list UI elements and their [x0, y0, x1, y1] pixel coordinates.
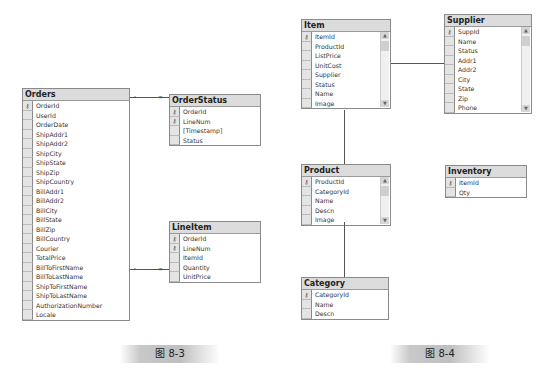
column-row[interactable]: Addr1 [445, 56, 531, 66]
column-row[interactable]: Supplier [302, 70, 390, 80]
table-product[interactable]: Product⚷ProductIdCategoryIdNameDescnImag… [301, 164, 391, 226]
column-row[interactable]: ⚷OrderId [170, 107, 260, 117]
column-name: ProductId [312, 42, 344, 52]
column-row[interactable]: OrderDate [23, 120, 129, 130]
column-row[interactable]: BillToFirstName [23, 263, 129, 273]
column-row[interactable]: Name [302, 300, 388, 310]
table-inventory[interactable]: Inventory⚷ItemIdQty [445, 165, 527, 198]
column-row[interactable]: ShipToFirstName [23, 282, 129, 292]
column-row[interactable]: BillCity [23, 206, 129, 216]
column-name: ItemId [312, 32, 335, 42]
column-row[interactable]: Addr2 [445, 65, 531, 75]
column-row[interactable]: Qty [446, 188, 526, 198]
column-row[interactable]: Quantity [170, 263, 260, 273]
scroll-down-icon[interactable]: ▼ [381, 217, 389, 224]
column-row[interactable]: ShipCountry [23, 177, 129, 187]
column-row[interactable]: Name [445, 37, 531, 47]
table-orderstatus[interactable]: OrderStatus⚷OrderId⚷LineNum[Timestamp]St… [169, 94, 261, 146]
column-row[interactable]: UnitPrice [170, 272, 260, 282]
row-selector [23, 177, 33, 187]
column-name: Zip [455, 94, 468, 104]
column-row[interactable]: Zip [445, 94, 531, 104]
column-row[interactable]: ⚷ItemId [446, 178, 526, 188]
scroll-down-icon[interactable]: ▼ [381, 100, 389, 107]
column-row[interactable]: Image [302, 99, 390, 109]
column-name: Name [312, 196, 333, 206]
column-row[interactable]: Status [445, 46, 531, 56]
row-selector [302, 70, 312, 80]
column-row[interactable]: UserId [23, 111, 129, 121]
column-row[interactable]: Descn [302, 206, 390, 216]
column-row[interactable]: ⚷LineNum [170, 244, 260, 254]
column-row[interactable]: Descn [302, 309, 388, 319]
table-item[interactable]: Item⚷ItemIdProductIdListPriceUnitCostSup… [301, 19, 391, 109]
column-row[interactable]: BillAddr1 [23, 187, 129, 197]
column-row[interactable]: ShipAddr1 [23, 130, 129, 140]
row-selector [302, 196, 312, 206]
column-row[interactable]: Name [302, 89, 390, 99]
column-name: AuthorizationNumber [33, 301, 102, 311]
column-row[interactable]: State [445, 84, 531, 94]
scrollbar[interactable]: ▲▼ [521, 27, 530, 112]
column-row[interactable]: ⚷OrderId [170, 234, 260, 244]
row-selector [23, 263, 33, 273]
row-selector [23, 310, 33, 320]
column-row[interactable]: ⚷ItemId [302, 32, 390, 42]
column-row[interactable]: CategoryId [302, 187, 390, 197]
column-row[interactable]: Locale [23, 310, 129, 320]
column-row[interactable]: City [445, 75, 531, 85]
column-row[interactable]: ⚷CategoryId [302, 290, 388, 300]
row-selector [302, 309, 312, 319]
scroll-down-icon[interactable]: ▼ [522, 105, 530, 112]
table-orders[interactable]: Orders⚷OrderIdUserIdOrderDateShipAddr1Sh… [22, 88, 130, 321]
column-row[interactable]: ShipToLastName [23, 291, 129, 301]
column-row[interactable]: TotalPrice [23, 253, 129, 263]
row-selector [23, 111, 33, 121]
column-row[interactable]: ListPrice [302, 51, 390, 61]
column-name: BillState [33, 215, 62, 225]
column-row[interactable]: BillZip [23, 225, 129, 235]
column-name: City [455, 75, 470, 85]
scroll-up-icon[interactable]: ▲ [381, 32, 389, 39]
scroll-thumb[interactable] [381, 186, 389, 196]
column-row[interactable]: ⚷LineNum [170, 117, 260, 127]
column-row[interactable]: BillState [23, 215, 129, 225]
column-row[interactable]: ItemId [170, 253, 260, 263]
table-lineitem[interactable]: LineItem⚷OrderId⚷LineNumItemIdQuantityUn… [169, 221, 261, 283]
scroll-thumb[interactable] [381, 41, 389, 51]
column-row[interactable]: BillToLastName [23, 272, 129, 282]
column-row[interactable]: Courier [23, 244, 129, 254]
scrollbar[interactable]: ▲▼ [380, 32, 389, 107]
column-row[interactable]: Status [170, 136, 260, 146]
column-row[interactable]: ⚷ProductId [302, 177, 390, 187]
column-row[interactable]: Status [302, 80, 390, 90]
table-supplier[interactable]: Supplier⚷SuppIdNameStatusAddr1Addr2CityS… [444, 14, 532, 114]
column-row[interactable]: Name [302, 196, 390, 206]
column-row[interactable]: ⚷SuppId [445, 27, 531, 37]
column-row[interactable]: [Timestamp] [170, 126, 260, 136]
key-icon: ⚷ [446, 178, 456, 188]
table-category[interactable]: Category⚷CategoryIdNameDescn [301, 277, 389, 320]
scrollbar[interactable]: ▲▼ [380, 177, 389, 224]
column-row[interactable]: Phone [445, 103, 531, 113]
column-row[interactable]: BillAddr2 [23, 196, 129, 206]
column-name: ShipToLastName [33, 291, 87, 301]
column-row[interactable]: ⚷OrderId [23, 101, 129, 111]
column-row[interactable]: Image [302, 215, 390, 225]
column-row[interactable]: AuthorizationNumber [23, 301, 129, 311]
column-name: OrderDate [33, 120, 68, 130]
column-row[interactable]: ShipAddr2 [23, 139, 129, 149]
column-name: Image [312, 99, 334, 109]
scroll-up-icon[interactable]: ▲ [522, 27, 530, 34]
scroll-up-icon[interactable]: ▲ [381, 177, 389, 184]
column-row[interactable]: ProductId [302, 42, 390, 52]
column-row[interactable]: ShipState [23, 158, 129, 168]
key-icon: ⚷ [170, 117, 180, 127]
row-selector [23, 272, 33, 282]
column-row[interactable]: ShipCity [23, 149, 129, 159]
column-row[interactable]: ShipZip [23, 168, 129, 178]
column-name: LineNum [180, 117, 210, 127]
scroll-thumb[interactable] [522, 36, 530, 46]
column-row[interactable]: BillCountry [23, 234, 129, 244]
column-row[interactable]: UnitCost [302, 61, 390, 71]
